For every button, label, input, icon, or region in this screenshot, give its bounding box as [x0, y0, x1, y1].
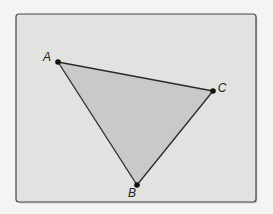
label-c: C — [218, 81, 227, 95]
label-a: A — [42, 50, 51, 64]
triangle-diagram: A B C — [0, 0, 273, 214]
point-c — [210, 88, 216, 94]
label-b: B — [128, 186, 136, 200]
point-a — [55, 59, 61, 65]
